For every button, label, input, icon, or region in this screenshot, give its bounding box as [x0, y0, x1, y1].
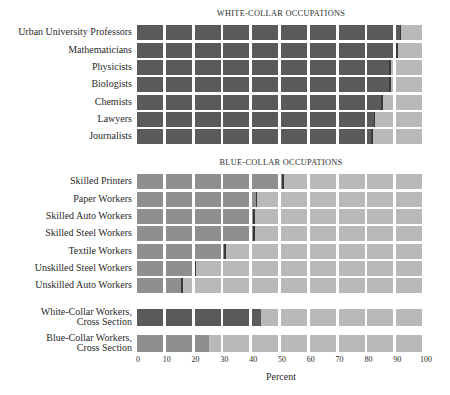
- bar-cell: [339, 95, 365, 110]
- bar-fill: [166, 60, 192, 75]
- bar-fill: [137, 278, 163, 293]
- bar-fill: [137, 261, 163, 276]
- bar-cell: [310, 43, 336, 58]
- bar-cell: [339, 60, 365, 75]
- bar-fill: [223, 95, 249, 110]
- bar-cell: [195, 112, 221, 127]
- bar-cell: [223, 209, 249, 224]
- bar-cell: [166, 95, 192, 110]
- bar-cell: [367, 226, 393, 241]
- bar-cell: [223, 226, 249, 241]
- bar-cell: [396, 95, 422, 110]
- bar-cell: [281, 43, 307, 58]
- value-marker: [371, 129, 373, 144]
- bar-cell: [367, 174, 393, 189]
- bar-cell: [223, 309, 249, 326]
- bar-cell: [166, 309, 192, 326]
- bar-fill: [195, 226, 221, 241]
- bar-cell: [396, 278, 422, 293]
- bar-cell: [137, 174, 163, 189]
- bar-cell: [396, 129, 422, 144]
- value-marker: [181, 278, 183, 293]
- bar-cell: [281, 174, 307, 189]
- bar-fill: [166, 95, 192, 110]
- value-marker: [282, 174, 284, 189]
- bar-cell: [223, 174, 249, 189]
- bar-fill: [195, 174, 221, 189]
- bar-cell: [339, 43, 365, 58]
- bar-cell: [310, 112, 336, 127]
- bar-cell: [195, 226, 221, 241]
- bar-fill: [137, 112, 163, 127]
- bar-cell: [252, 226, 278, 241]
- bar-cell: [396, 309, 422, 326]
- bar-fill: [166, 335, 192, 352]
- bar-cell: [281, 192, 307, 207]
- bar-fill: [166, 209, 192, 224]
- bar-cell: [281, 335, 307, 352]
- bar-cell: [396, 112, 422, 127]
- bar-fill: [367, 77, 390, 92]
- bar-cell: [367, 112, 393, 127]
- bar-cell: [339, 278, 365, 293]
- bar-fill: [252, 309, 261, 326]
- bar-fill: [339, 77, 365, 92]
- bar-cell: [195, 60, 221, 75]
- bar-cell: [252, 174, 278, 189]
- bar-fill: [195, 309, 221, 326]
- x-tick-label: 0: [136, 355, 140, 364]
- bar-fill: [281, 43, 307, 58]
- bar-cell: [310, 244, 336, 259]
- bar-cell: [281, 226, 307, 241]
- bar-cell: [339, 335, 365, 352]
- bar-cell: [195, 309, 221, 326]
- row-label: White-Collar Workers,Cross Section: [41, 307, 132, 327]
- row-label: Biologists: [91, 79, 132, 89]
- bar-fill: [195, 43, 221, 58]
- bar-cell: [252, 77, 278, 92]
- x-tick-label: 90: [393, 355, 401, 364]
- bar: [137, 278, 425, 293]
- x-tick-label: 40: [249, 355, 257, 364]
- bar-fill: [310, 60, 336, 75]
- row-label: Unskilled Steel Workers: [35, 263, 132, 273]
- bar-cell: [252, 261, 278, 276]
- bar-fill: [166, 244, 192, 259]
- x-tick-label: 50: [278, 355, 286, 364]
- bar-fill: [339, 60, 365, 75]
- bar-cell: [252, 192, 278, 207]
- bar-fill: [195, 60, 221, 75]
- bar-cell: [166, 261, 192, 276]
- bar-cell: [252, 244, 278, 259]
- bar-fill: [367, 60, 390, 75]
- bar-fill: [223, 25, 249, 40]
- bar-fill: [137, 77, 163, 92]
- bar-cell: [166, 226, 192, 241]
- bar-cell: [310, 309, 336, 326]
- bar-fill: [137, 335, 163, 352]
- bar-fill: [281, 112, 307, 127]
- bar-fill: [137, 244, 163, 259]
- bar-fill: [367, 43, 393, 58]
- bar-cell: [166, 335, 192, 352]
- bar-fill: [281, 25, 307, 40]
- bar-cell: [137, 192, 163, 207]
- bar-cell: [367, 60, 393, 75]
- bar-cell: [281, 77, 307, 92]
- bar: [137, 77, 425, 92]
- bar-cell: [252, 95, 278, 110]
- bar-cell: [137, 112, 163, 127]
- bar-cell: [195, 278, 221, 293]
- bar-fill: [252, 60, 278, 75]
- bar-cell: [223, 43, 249, 58]
- bar-cell: [137, 309, 163, 326]
- bar-cell: [195, 244, 221, 259]
- bar: [137, 226, 425, 241]
- bar-cell: [339, 129, 365, 144]
- bar-cell: [367, 77, 393, 92]
- bar-fill: [252, 174, 278, 189]
- blue-collar-title: BLUE-COLLAR OCCUPATIONS: [137, 158, 425, 167]
- value-marker: [253, 209, 255, 224]
- x-axis-label: Percent: [137, 371, 425, 382]
- bar-fill: [223, 77, 249, 92]
